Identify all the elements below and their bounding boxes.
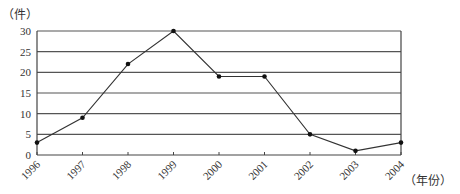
gridlines [37,31,401,134]
y-tick-label: 30 [20,25,32,37]
x-axis-unit-label: （年份） [404,174,452,188]
x-tick-label: 2001 [246,158,270,182]
data-point-marker [262,74,267,79]
x-tick-label: 2002 [291,158,315,182]
data-point-marker [80,116,85,121]
x-tick-label: 1996 [18,158,42,182]
y-tick-label: 20 [20,66,32,78]
data-point-marker [217,74,222,79]
data-point-marker [308,132,313,137]
y-tick-label: 25 [20,46,32,58]
data-point-marker [35,140,40,145]
data-point-marker [126,62,131,67]
x-tick-label: 1997 [64,158,88,182]
x-tick-label: 2003 [337,158,361,182]
y-axis-unit-label: （件） [2,8,38,22]
y-tick-label: 5 [26,128,32,140]
x-axis-ticks: 199619971998199920002001200220032004 [18,152,406,182]
y-axis-ticks: 051015202530 [20,25,32,161]
x-tick-label: 1999 [155,158,179,182]
y-tick-label: 0 [26,149,32,161]
data-line [37,31,401,151]
y-tick-label: 15 [20,87,32,99]
data-point-marker [399,140,404,145]
x-tick-label: 1998 [109,158,133,182]
line-chart: 051015202530 199619971998199920002001200… [0,0,460,194]
x-tick-label: 2000 [200,158,224,182]
data-point-marker [353,149,358,154]
y-tick-label: 10 [20,108,32,120]
data-point-marker [171,29,176,34]
